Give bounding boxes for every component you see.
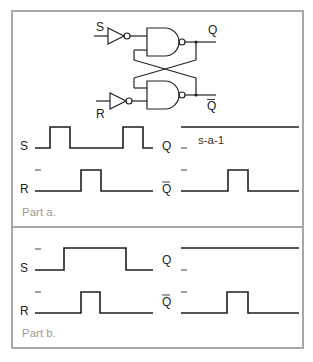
part-a-qbar-label: Q bbox=[162, 182, 171, 196]
part-b-qbar-label: Q bbox=[162, 295, 171, 309]
part-b-qbar-waveform bbox=[181, 292, 299, 313]
outer-border bbox=[12, 11, 303, 348]
part-b-s-waveform bbox=[35, 248, 153, 270]
part-b: S R Q Q Part b. bbox=[20, 248, 299, 339]
output-q-label: Q bbox=[208, 23, 217, 37]
nand-top-bubble bbox=[179, 39, 185, 45]
figure-frame bbox=[12, 11, 303, 348]
fault-annotation: s-a-1 bbox=[198, 134, 224, 146]
part-b-q-label: Q bbox=[162, 253, 171, 267]
inverter-r-icon bbox=[110, 93, 126, 109]
part-b-r-waveform bbox=[35, 292, 153, 313]
part-a: S R Q s-a-1 Q Part a. bbox=[20, 127, 299, 218]
junction-qbar bbox=[194, 93, 197, 96]
output-qbar-label: Q bbox=[207, 99, 216, 113]
sr-latch-figure: S Q Q R S bbox=[0, 0, 313, 362]
sr-latch-circuit: S Q Q R bbox=[94, 20, 217, 121]
part-a-r-waveform bbox=[35, 170, 153, 191]
part-a-s-label: S bbox=[20, 139, 28, 153]
input-s-label: S bbox=[96, 20, 104, 34]
part-b-r-label: R bbox=[20, 304, 29, 318]
part-b-s-label: S bbox=[20, 261, 28, 275]
part-a-qbar-waveform bbox=[181, 170, 299, 191]
nand-bottom-icon bbox=[147, 81, 179, 109]
part-a-q-label: Q bbox=[162, 139, 171, 153]
part-a-caption: Part a. bbox=[22, 206, 56, 218]
nand-bottom-bubble bbox=[179, 92, 185, 98]
part-b-caption: Part b. bbox=[22, 327, 56, 339]
part-a-r-label: R bbox=[20, 182, 29, 196]
inverter-s-icon bbox=[108, 28, 124, 44]
nand-top-icon bbox=[147, 28, 179, 56]
input-r-label: R bbox=[96, 107, 105, 121]
part-a-s-waveform bbox=[35, 127, 153, 148]
